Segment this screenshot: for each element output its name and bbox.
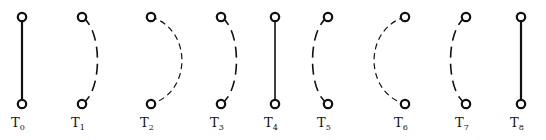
bottom-node — [18, 100, 26, 108]
edge-line — [374, 17, 405, 104]
label-subscript: 5 — [326, 123, 331, 132]
figure-label: T1 — [71, 115, 85, 132]
label-subscript: 4 — [273, 123, 278, 132]
label-subscript: 7 — [464, 123, 469, 132]
label-subscript: 2 — [149, 123, 154, 132]
figure-label: T5 — [317, 115, 331, 132]
top-node — [401, 13, 409, 21]
figure-T6: T6 — [374, 13, 409, 132]
label-subscript: 0 — [20, 123, 25, 132]
top-node — [462, 13, 470, 21]
label-subscript: 1 — [80, 123, 85, 132]
edge-line — [151, 17, 182, 104]
bottom-node — [517, 100, 525, 108]
top-node — [517, 13, 525, 21]
figure-T1: T1 — [71, 13, 97, 132]
figure-T8: T8 — [510, 13, 525, 132]
transition-diagram: T0T1T2T3T4T5T6T7T8 — [0, 0, 546, 140]
figure-T2: T2 — [140, 13, 182, 132]
figure-label: T3 — [210, 115, 224, 132]
top-node — [271, 13, 279, 21]
bottom-node — [401, 100, 409, 108]
figure-label: T8 — [510, 115, 524, 132]
bottom-node — [217, 100, 225, 108]
figure-label: T0 — [11, 115, 25, 132]
figure-label: T2 — [140, 115, 154, 132]
edge-line — [451, 17, 466, 104]
figure-label: T7 — [455, 115, 469, 132]
figure-T5: T5 — [313, 13, 333, 132]
label-subscript: 6 — [403, 123, 408, 132]
bottom-node — [462, 100, 470, 108]
bottom-node — [324, 100, 332, 108]
bottom-node — [271, 100, 279, 108]
edge-line — [82, 17, 97, 104]
edge-line — [313, 17, 328, 104]
top-node — [217, 13, 225, 21]
label-subscript: 8 — [519, 123, 524, 132]
figure-T7: T7 — [451, 13, 471, 132]
top-node — [18, 13, 26, 21]
figure-label: T4 — [264, 115, 278, 132]
edge-line — [221, 17, 236, 104]
top-node — [147, 13, 155, 21]
top-node — [78, 13, 86, 21]
figure-T4: T4 — [264, 13, 279, 132]
label-subscript: 3 — [219, 123, 224, 132]
figure-label: T6 — [394, 115, 408, 132]
top-node — [324, 13, 332, 21]
figure-T0: T0 — [11, 13, 26, 132]
figure-T3: T3 — [210, 13, 236, 132]
bottom-node — [78, 100, 86, 108]
bottom-node — [147, 100, 155, 108]
